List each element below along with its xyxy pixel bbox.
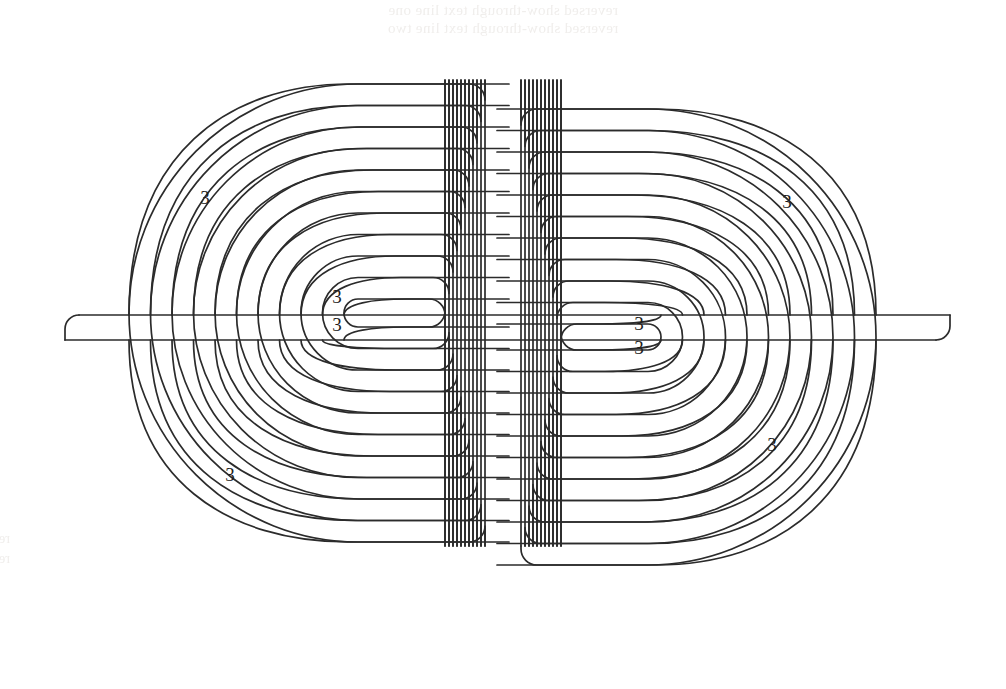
outer-equator-left-cap — [65, 315, 79, 340]
multiplicity-label: 3 — [634, 313, 644, 334]
bottom-left-lobe-arc-8 — [172, 340, 477, 546]
bottom-left-lobe-arc-5 — [237, 340, 466, 546]
bottom-left-lobe-arc-10 — [129, 340, 485, 546]
bottom-left-lobe-arc-7 — [194, 340, 474, 546]
multiplicity-label: 3 — [634, 337, 644, 358]
bottom-left-lobe-arc-9 — [151, 340, 482, 546]
top-right-lobe-arc-6 — [537, 80, 790, 315]
bottom-left-lobe-arc-1 — [323, 333, 450, 547]
right-spiral-ring-9 — [497, 131, 855, 544]
top-left-lobe-arc-7 — [194, 80, 474, 315]
left-spiral-ring-4 — [258, 213, 509, 413]
double-spiral-labyrinth-figure: 33333333 — [0, 0, 1006, 689]
bottom-left-lobe-arc-2 — [301, 340, 453, 546]
multiplicity-label: 3 — [782, 191, 792, 212]
bottom-right-lobe-arc-10 — [521, 340, 876, 565]
figure-page: reversed show-through text line one reve… — [0, 0, 1006, 689]
bottom-left-lobe-arc-0 — [344, 311, 445, 546]
left-spiral-ring-5 — [236, 192, 509, 435]
labyrinth-path-group — [65, 80, 950, 565]
top-right-lobe-arc-0 — [561, 80, 661, 340]
multiplicity-label: 3 — [332, 286, 342, 307]
multiplicity-label: 3 — [767, 434, 777, 455]
left-spiral-ring-3 — [280, 235, 510, 392]
right-spiral-ring-2 — [497, 281, 704, 393]
top-left-lobe-arc-6 — [215, 80, 469, 315]
right-spiral-ring-3 — [497, 260, 726, 415]
multiplicity-label-group: 33333333 — [200, 187, 792, 485]
multiplicity-label: 3 — [200, 187, 210, 208]
top-left-lobe-arc-1 — [323, 80, 450, 315]
top-left-lobe-arc-0 — [344, 80, 445, 315]
left-spiral-ring-9 — [151, 106, 510, 521]
top-right-lobe-arc-2 — [553, 80, 704, 315]
bottom-left-lobe-arc-6 — [215, 340, 469, 546]
top-right-lobe-arc-9 — [525, 80, 855, 315]
bottom-right-lobe-arc-1 — [557, 340, 683, 546]
multiplicity-label: 3 — [332, 314, 342, 335]
outer-equator-right-cap — [936, 315, 950, 340]
multiplicity-label: 3 — [225, 464, 235, 485]
right-spiral-ring-4 — [497, 238, 747, 436]
left-spiral-ring-8 — [172, 127, 509, 499]
top-left-lobe-arc-10 — [129, 80, 485, 315]
bottom-right-lobe-arc-0 — [561, 334, 661, 546]
